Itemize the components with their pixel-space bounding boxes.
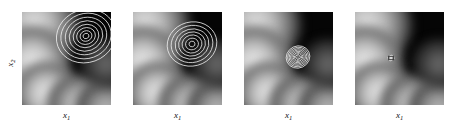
objective-ridge-4: [355, 12, 444, 105]
x-axis-label-subscript: 1: [289, 114, 292, 121]
x-axis-label-4: x1: [355, 110, 444, 121]
y-axis-label-subscript: 2: [9, 59, 16, 62]
x-axis-label-3: x1: [244, 110, 333, 121]
plot-panel-2: [133, 12, 222, 105]
plot-panel-4: [355, 12, 444, 105]
heatmap-surface-2: [133, 12, 222, 105]
plot-panel-3: [244, 12, 333, 105]
heatmap-surface-4: [355, 12, 444, 105]
x-axis-label-subscript: 1: [67, 114, 70, 121]
objective-ridge-2: [133, 12, 222, 105]
plot-panel-1: [22, 12, 111, 105]
x-axis-label-subscript: 1: [178, 114, 181, 121]
x-axis-label-subscript: 1: [400, 114, 403, 121]
heatmap-surface-1: [22, 12, 111, 105]
y-axis-label: x2: [0, 54, 21, 72]
x-axis-label-2: x1: [133, 110, 222, 121]
objective-ridge-3: [244, 12, 333, 105]
contour-figure: x2 x1: [0, 0, 456, 132]
heatmap-surface-3: [244, 12, 333, 105]
objective-ridge-1: [22, 12, 111, 105]
y-axis-label-text: x: [5, 63, 15, 67]
x-axis-label-1: x1: [22, 110, 111, 121]
